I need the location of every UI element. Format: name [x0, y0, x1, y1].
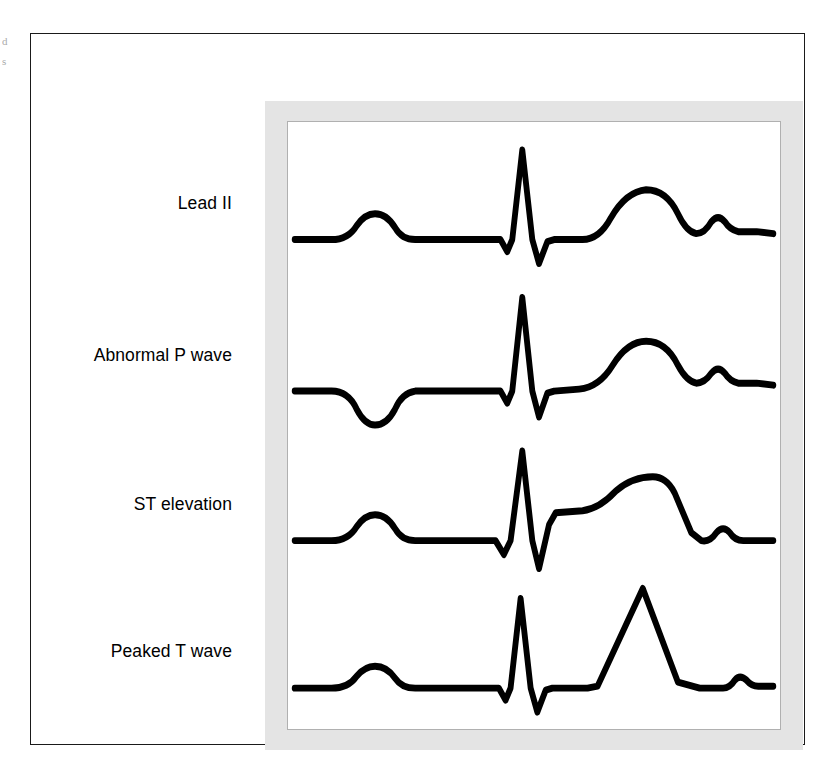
ecg-trace-peaked-t-wave [295, 588, 774, 712]
ecg-trace-abnormal-p-wave [295, 297, 774, 425]
trace-label-lead-ii: Lead II [12, 193, 232, 214]
trace-label-peaked-t-wave: Peaked T wave [12, 641, 232, 662]
ecg-trace-st-elevation [295, 451, 774, 569]
ecg-trace-lead-ii [295, 150, 774, 264]
trace-label-column: Lead II Abnormal P wave ST elevation Pea… [0, 0, 232, 780]
ecg-plot-area [287, 121, 781, 730]
page-margin-text-sliver-bottom: s [2, 56, 11, 67]
page-margin-text-sliver-top: d [2, 36, 11, 47]
trace-label-abnormal-p-wave: Abnormal P wave [12, 345, 232, 366]
ecg-waveform-canvas [288, 122, 780, 729]
trace-label-st-elevation: ST elevation [12, 494, 232, 515]
